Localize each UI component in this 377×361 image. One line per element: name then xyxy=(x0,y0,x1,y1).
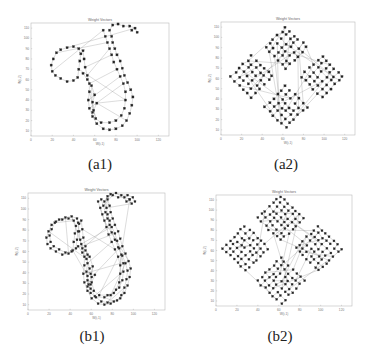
data-point xyxy=(90,288,92,290)
data-point xyxy=(326,247,328,249)
data-point xyxy=(237,232,239,234)
data-point xyxy=(91,101,93,103)
data-point xyxy=(292,213,294,215)
x-tick-label: 40 xyxy=(72,138,76,142)
data-point xyxy=(112,41,114,43)
data-point xyxy=(243,226,245,228)
y-tick-label: 30 xyxy=(25,108,29,112)
data-point xyxy=(255,66,257,68)
data-point xyxy=(90,292,92,294)
data-point xyxy=(103,304,105,306)
data-point xyxy=(330,252,332,254)
y-tick-label: 100 xyxy=(209,208,215,212)
data-point xyxy=(302,102,304,104)
x-tick-label: 100 xyxy=(321,137,327,141)
axes-box xyxy=(216,195,352,306)
data-point xyxy=(121,67,123,69)
data-point xyxy=(341,75,343,77)
data-point xyxy=(87,275,89,277)
data-point xyxy=(310,248,312,250)
data-point xyxy=(236,247,238,249)
data-point xyxy=(78,48,80,50)
data-point xyxy=(66,80,68,82)
y-tick-label: 30 xyxy=(22,281,26,285)
x-tick-label: 20 xyxy=(47,312,51,316)
x-axis-label: W(i,1) xyxy=(92,316,101,320)
panel-a2: 020406080100120102030405060708090100110W… xyxy=(190,0,377,180)
data-point xyxy=(272,232,274,234)
data-point xyxy=(275,198,277,200)
data-point xyxy=(90,85,92,87)
data-point xyxy=(287,273,289,275)
data-point xyxy=(295,247,297,249)
x-tick-label: 20 xyxy=(240,137,244,141)
data-point xyxy=(268,71,270,73)
data-point xyxy=(78,68,80,70)
data-point xyxy=(287,203,289,205)
data-point xyxy=(263,74,265,76)
data-point xyxy=(275,276,277,278)
panel-a1: 020406080100120102030405060708090100110W… xyxy=(0,0,190,180)
data-point xyxy=(264,272,266,274)
data-point xyxy=(280,257,282,259)
data-point xyxy=(295,225,297,227)
data-point xyxy=(51,224,53,226)
data-point xyxy=(303,71,305,73)
data-point xyxy=(124,253,126,255)
data-point xyxy=(66,47,68,49)
data-point xyxy=(100,122,102,124)
data-point xyxy=(51,228,53,230)
data-point xyxy=(75,225,77,227)
data-point xyxy=(280,232,282,234)
data-point xyxy=(130,268,132,270)
data-point xyxy=(248,66,250,68)
data-point xyxy=(230,254,232,256)
data-point xyxy=(114,224,116,226)
data-point xyxy=(284,85,286,87)
data-point xyxy=(246,92,248,94)
data-point xyxy=(233,258,235,260)
data-point xyxy=(54,74,56,76)
data-point xyxy=(82,273,84,275)
data-point xyxy=(285,299,287,301)
data-point xyxy=(269,214,271,216)
x-tick-label: 40 xyxy=(68,312,72,316)
data-point xyxy=(83,281,85,283)
data-point xyxy=(289,97,291,99)
data-point xyxy=(108,29,110,31)
data-point xyxy=(87,254,89,256)
data-point xyxy=(326,240,328,242)
data-point xyxy=(317,59,319,61)
data-point xyxy=(258,88,260,90)
data-point xyxy=(313,230,315,232)
y-tick-label: 10 xyxy=(215,128,219,132)
data-point xyxy=(284,198,286,200)
data-point xyxy=(123,74,125,76)
data-point xyxy=(241,237,243,239)
data-point xyxy=(328,259,330,261)
data-point xyxy=(53,245,55,247)
data-point xyxy=(293,35,295,37)
data-point xyxy=(281,47,283,49)
data-point xyxy=(120,194,122,196)
data-point xyxy=(321,80,323,82)
data-point xyxy=(305,251,307,253)
data-point xyxy=(103,201,105,203)
data-point xyxy=(248,237,250,239)
data-point xyxy=(302,254,304,256)
data-point xyxy=(330,79,332,81)
data-point xyxy=(267,248,269,250)
data-point xyxy=(245,263,247,265)
data-point xyxy=(58,219,60,221)
data-point xyxy=(264,216,266,218)
y-tick-label: 20 xyxy=(25,119,29,123)
data-point xyxy=(322,266,324,268)
data-point xyxy=(338,79,340,81)
data-point xyxy=(267,229,269,231)
data-point xyxy=(240,265,242,267)
data-point xyxy=(88,283,90,285)
data-point xyxy=(124,262,126,264)
data-point xyxy=(123,196,125,198)
x-tick-label: 100 xyxy=(318,308,324,312)
data-point xyxy=(119,60,121,62)
